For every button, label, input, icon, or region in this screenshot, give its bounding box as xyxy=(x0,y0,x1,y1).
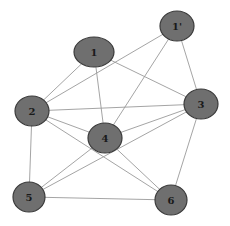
graph-diagram: 11'23456 xyxy=(0,0,230,226)
node-label: 5 xyxy=(26,192,33,203)
node-label: 1' xyxy=(172,21,182,32)
edge-layer xyxy=(29,26,201,200)
node-label: 1 xyxy=(91,47,98,58)
edge-2-3 xyxy=(32,104,201,111)
node-3: 3 xyxy=(184,89,218,119)
node-label: 2 xyxy=(29,106,36,117)
edge-5-6 xyxy=(29,197,171,200)
node-4: 4 xyxy=(88,123,122,153)
node-1: 1 xyxy=(74,37,114,67)
node-layer: 11'23456 xyxy=(13,11,218,215)
edge-1p-4 xyxy=(105,26,177,138)
node-label: 6 xyxy=(168,195,175,206)
node-label: 3 xyxy=(198,99,205,110)
node-1p: 1' xyxy=(160,11,194,41)
node-6: 6 xyxy=(155,185,187,215)
node-5: 5 xyxy=(13,182,45,212)
node-label: 4 xyxy=(102,133,109,144)
node-2: 2 xyxy=(15,96,49,126)
